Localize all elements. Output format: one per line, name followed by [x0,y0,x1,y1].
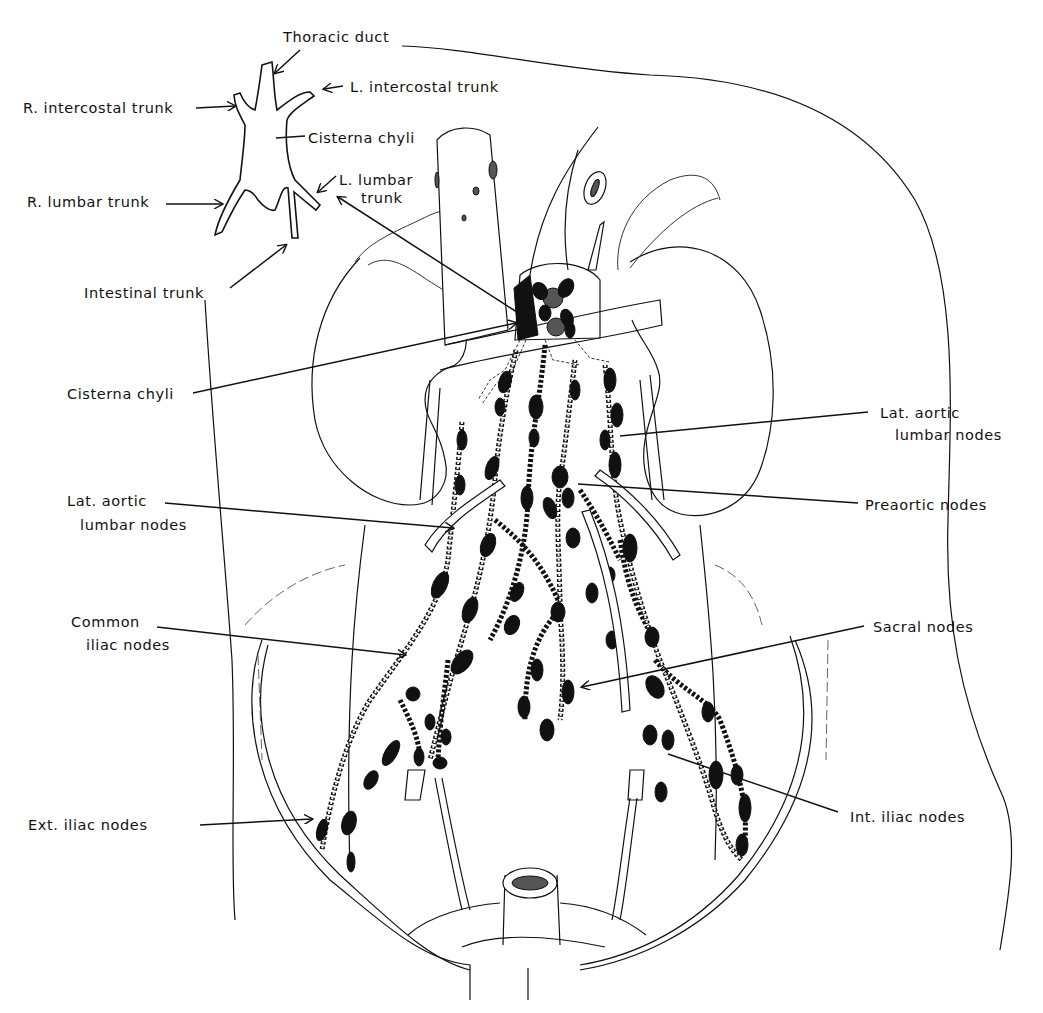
label-lat-aortic-left-line1: Lat. aortic [67,493,147,509]
lat-aortic-left-leader [165,503,453,528]
inferior-vena-cava [435,128,508,345]
lat-aortic-right-leader [620,412,868,436]
label-intestinal-trunk: Intestinal trunk [84,285,204,301]
l-intercostal-leader [324,86,343,89]
label-lat-aortic-right-line1: Lat. aortic [880,405,960,421]
int-iliac-leader [668,754,838,812]
label-lat-aortic-left-line2: lumbar nodes [80,517,187,533]
label-cisterna-chyli: Cisterna chyli [67,386,174,402]
main-labels: Cisterna chyli Lat. aortic lumbar nodes … [28,386,1002,833]
cisterna-inset-leader [276,136,305,138]
lymph-nodes [314,368,751,872]
intestinal-leader [230,245,286,288]
label-sacral: Sacral nodes [873,619,974,635]
ext-iliac-leader [200,819,312,825]
label-ext-iliac: Ext. iliac nodes [28,817,148,833]
label-r-lumbar-trunk: R. lumbar trunk [27,194,149,210]
label-l-lumbar-trunk-line2: trunk [361,190,402,206]
body-outline [205,46,1012,1000]
cisterna-leader [193,323,516,393]
label-common-iliac-line2: iliac nodes [86,637,170,653]
crus-and-celiac [530,127,610,275]
label-cisterna-chyli-inset: Cisterna chyli [308,130,415,146]
thoracic-duct-leader [275,50,300,73]
label-common-iliac-line1: Common [71,614,140,630]
rectum-and-bladder [408,868,646,947]
leader-lines [157,50,868,825]
label-r-intercostal-trunk: R. intercostal trunk [23,100,173,116]
label-preaortic: Preaortic nodes [865,497,987,513]
common-iliac-leader [157,627,405,655]
l-lumbar-leader [318,176,336,192]
label-l-lumbar-trunk-line1: L. lumbar [339,172,413,188]
label-lat-aortic-right-line2: lumbar nodes [895,427,1002,443]
lymphatic-diagram: Thoracic duct R. intercostal trunk L. in… [0,0,1043,1013]
r-intercostal-leader [196,106,235,108]
inset-cisterna-chyli [215,62,320,238]
lymph-chains [322,345,745,860]
label-thoracic-duct: Thoracic duct [282,29,389,45]
label-l-intercostal-trunk: L. intercostal trunk [350,79,499,95]
left-kidney [618,175,774,515]
label-int-iliac: Int. iliac nodes [850,809,965,825]
